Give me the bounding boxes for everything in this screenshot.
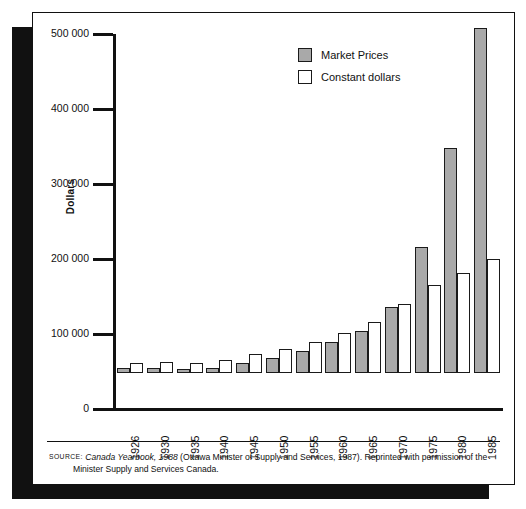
source-line-2: Minister Supply and Services Canada. [49,464,501,476]
y-axis-tick [93,33,113,36]
y-axis-tick-label: 400 000 [19,102,89,114]
source-note: SOURCE: Canada Yearbook, 1988 (Ottawa Mi… [49,451,501,475]
legend-item: Constant dollars [298,70,401,84]
bar-constant-dollars [160,362,173,373]
bar-market-prices [355,331,368,373]
bar-market-prices [147,368,160,373]
y-axis-tick-label: 200 000 [19,252,89,264]
legend-swatch-icon [298,70,312,84]
y-axis-tick-label: 300 000 [19,177,89,189]
bar-group [296,342,326,374]
bar-constant-dollars [279,349,292,373]
legend-label: Market Prices [321,49,388,61]
bar-market-prices [444,148,457,373]
source-rest: (Ottawa Minister of Supply and Services,… [178,452,488,462]
bar-market-prices [266,358,279,373]
source-title: Canada Yearbook, 1988 [85,452,178,462]
bar-constant-dollars [130,363,143,374]
source-label: SOURCE: [49,453,83,460]
x-axis-line [113,408,503,411]
bar-market-prices [325,342,338,373]
y-axis-tick [93,183,113,186]
y-axis-tick [93,258,113,261]
y-axis-title: Dollars [65,152,76,242]
bar-group [474,28,504,373]
figure-card: Dollars 500 000400 000300 000200 000100 … [32,12,515,485]
y-axis-tick [93,108,113,111]
bar-constant-dollars [249,354,262,373]
bar-constant-dollars [457,273,470,374]
bar-market-prices [385,307,398,373]
bar-market-prices [415,247,428,373]
bar-market-prices [236,363,249,373]
bar-market-prices [474,28,487,373]
y-axis-tick-label: 100 000 [19,327,89,339]
bar-group [385,304,415,373]
y-axis-tick [93,333,113,336]
bar-group [236,354,266,373]
bar-constant-dollars [368,322,381,373]
y-axis-tick [93,408,113,411]
bar-group [444,148,474,373]
bar-market-prices [296,351,309,374]
bar-group [147,362,177,373]
bar-group [117,363,147,374]
legend-item: Market Prices [298,48,401,62]
y-axis-tick-label: 500 000 [19,27,89,39]
chart-plot-area: Dollars 500 000400 000300 000200 000100 … [33,13,514,484]
bar-group [325,333,355,374]
legend-label: Constant dollars [321,71,401,83]
bar-constant-dollars [428,285,441,373]
bar-group [266,349,296,373]
y-axis-tick-label: 0 [19,402,89,414]
bar-group [177,363,207,374]
source-divider [47,441,500,442]
bar-constant-dollars [338,333,351,374]
bar-market-prices [177,369,190,374]
legend-swatch-icon [298,48,312,62]
bar-constant-dollars [190,363,203,374]
bar-constant-dollars [309,342,322,374]
bar-constant-dollars [219,360,232,374]
bar-constant-dollars [398,304,411,373]
bar-market-prices [117,368,130,373]
bar-group [355,322,385,373]
bar-market-prices [206,368,219,373]
bar-group [415,247,445,373]
bar-constant-dollars [487,259,500,373]
chart-legend: Market PricesConstant dollars [298,48,401,92]
bar-group [206,360,236,374]
